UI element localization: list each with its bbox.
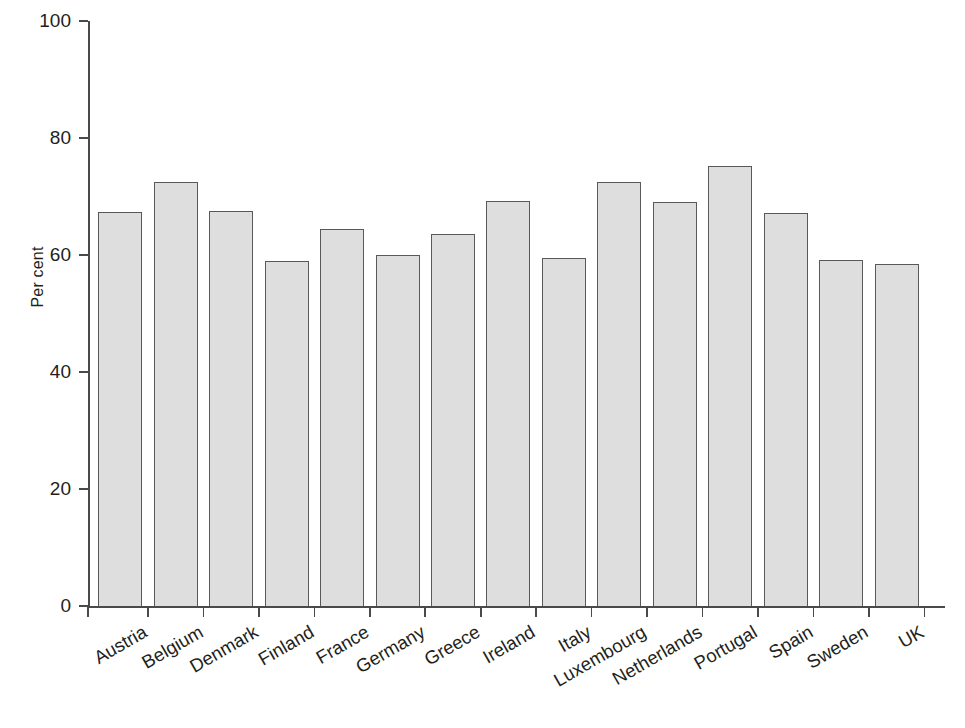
x-axis-label: UK [917,608,950,640]
bar [542,258,586,606]
y-axis-tick-label: 60 [50,244,71,266]
y-axis-tick-label: 80 [50,127,71,149]
y-axis-tick: 40 [79,371,88,373]
y-axis-tick-label: 0 [60,595,71,617]
bar [265,261,309,606]
bar [431,234,475,606]
bar [597,182,641,606]
bar [376,255,420,606]
y-axis-tick: 80 [79,137,88,139]
y-axis-tick-label: 20 [50,478,71,500]
y-axis-tick: 20 [79,488,88,490]
y-axis-tick-label: 40 [50,361,71,383]
bar [320,229,364,606]
bar [819,260,863,606]
y-axis-title: Per cent [29,217,47,337]
y-axis-line [88,21,90,606]
bar [764,213,808,606]
bar [708,166,752,606]
y-axis-tick-label: 100 [39,10,71,32]
bar [98,212,142,606]
bar [154,182,198,606]
bar [875,264,919,606]
y-axis-tick: 60 [79,254,88,256]
x-axis-tick [87,607,89,617]
plot-area: 020406080100 AustriaBelgiumDenmarkFinlan… [88,21,945,606]
y-axis-tick: 100 [79,20,88,22]
bar [653,202,697,606]
bar [209,211,253,606]
bar-chart: Per cent 020406080100 AustriaBelgiumDenm… [0,0,965,728]
bar [486,201,530,606]
